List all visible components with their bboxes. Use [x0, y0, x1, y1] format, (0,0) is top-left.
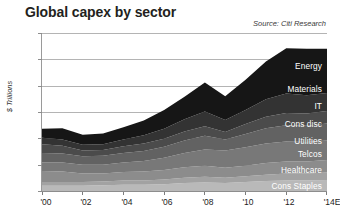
x-tick-label-10: '10	[242, 197, 253, 207]
x-tick-label-00: '00	[40, 197, 51, 207]
series-label-cons-disc: Cons disc	[285, 119, 322, 129]
series-label-healthcare: Healthcare	[281, 165, 322, 175]
source-attribution: Source: Citi Research	[253, 19, 326, 28]
series-label-energy: Energy	[295, 61, 322, 71]
page-title: Global capex by sector	[25, 4, 176, 20]
y-axis-label: $ Trillions	[5, 67, 14, 127]
x-tick-label-02: '02	[80, 197, 91, 207]
series-label-cons-staples: Cons Staples	[271, 181, 322, 191]
x-axis-line	[41, 191, 327, 192]
x-tick-label-04: '04	[121, 197, 132, 207]
x-tick-label-14E: '14E	[324, 197, 340, 207]
series-label-it: IT	[314, 101, 322, 111]
x-tick-label-08: '08	[202, 197, 213, 207]
x-tick-label-06: '06	[161, 197, 172, 207]
series-label-utilities: Utilities	[294, 136, 322, 146]
series-label-telcos: Telcos	[298, 149, 322, 159]
series-label-materials: Materials	[287, 84, 322, 94]
plot-area: '00 '02 '04 '06 '08 '10 '12 '14E Energy …	[41, 33, 327, 191]
x-tick-label-12: '12	[283, 197, 294, 207]
